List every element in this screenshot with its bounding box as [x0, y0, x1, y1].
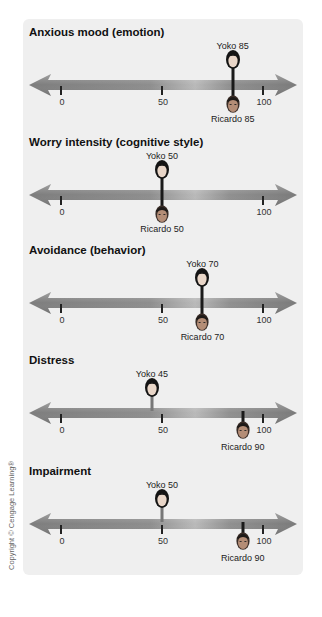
tick-mark: [161, 86, 162, 95]
tick-mark: [60, 414, 61, 423]
tick-label: 100: [256, 536, 271, 546]
double-arrow-icon: [29, 73, 297, 97]
ricardo-label: Ricardo 85: [211, 114, 255, 124]
tick-label: 0: [59, 97, 64, 107]
ricardo-label: Ricardo 70: [181, 332, 225, 342]
ricardo-label: Ricardo 50: [140, 224, 184, 234]
tick-label: 100: [256, 425, 271, 435]
ricardo-face-icon: [195, 312, 209, 331]
scale-section: Distress 050100Yoko 45 Ricardo 90: [0, 347, 322, 457]
double-arrow-icon: [29, 401, 297, 425]
double-arrow-icon: [29, 291, 297, 315]
tick-mark: [262, 304, 263, 313]
scale-title: Worry intensity (cognitive style): [29, 136, 203, 148]
tick-label: 100: [256, 97, 271, 107]
tick-mark: [60, 196, 61, 205]
ricardo-face-icon: [236, 420, 250, 439]
tick-mark: [60, 304, 61, 313]
yoko-face-icon: [195, 268, 209, 287]
yoko-face-icon: [226, 50, 240, 69]
tick-mark: [262, 414, 263, 423]
yoko-stem: [150, 395, 153, 411]
tick-label: 0: [59, 207, 64, 217]
yoko-face-icon: [145, 378, 159, 397]
tick-mark: [161, 525, 162, 534]
tick-label: 0: [59, 425, 64, 435]
scale-section: Impairment 050100Yoko 50 Ricardo 90: [0, 458, 322, 568]
scale-section: Worry intensity (cognitive style) 0100Yo…: [0, 129, 322, 239]
tick-label: 50: [158, 315, 168, 325]
ricardo-label: Ricardo 90: [221, 442, 265, 452]
scale-title: Distress: [29, 354, 74, 366]
tick-label: 50: [158, 97, 168, 107]
copyright-notice: Copyright © Cengage Learning®: [7, 461, 16, 570]
tick-mark: [60, 86, 61, 95]
scale-title: Impairment: [29, 465, 91, 477]
ricardo-face-icon: [155, 204, 169, 223]
tick-mark: [262, 525, 263, 534]
ricardo-face-icon: [226, 94, 240, 113]
tick-label: 50: [158, 425, 168, 435]
tick-label: 0: [59, 536, 64, 546]
scale-title: Anxious mood (emotion): [29, 26, 164, 38]
tick-mark: [161, 414, 162, 423]
yoko-stem: [161, 506, 164, 522]
yoko-face-icon: [155, 160, 169, 179]
scale-section: Avoidance (behavior) 050100Yoko 70 Ricar…: [0, 237, 322, 347]
tick-label: 50: [158, 536, 168, 546]
ricardo-label: Ricardo 90: [221, 553, 265, 563]
tick-mark: [262, 86, 263, 95]
tick-mark: [262, 196, 263, 205]
tick-label: 100: [256, 315, 271, 325]
yoko-face-icon: [155, 489, 169, 508]
ricardo-face-icon: [236, 531, 250, 550]
scale-section: Anxious mood (emotion) 050100Yoko 85 Ric…: [0, 19, 322, 129]
tick-label: 100: [256, 207, 271, 217]
scale-title: Avoidance (behavior): [29, 244, 146, 256]
tick-mark: [161, 304, 162, 313]
tick-mark: [60, 525, 61, 534]
tick-label: 0: [59, 315, 64, 325]
